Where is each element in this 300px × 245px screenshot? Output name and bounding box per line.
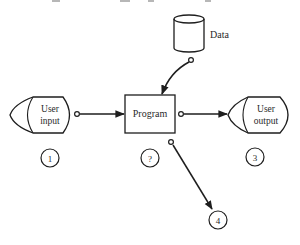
edge-input-to-program: [75, 112, 124, 117]
user-input-label-line1: User: [41, 104, 60, 114]
connector-dot: [169, 140, 174, 145]
marker-3: 3: [246, 148, 264, 166]
marker-4-label: 4: [216, 216, 221, 226]
data-store-label: Data: [210, 29, 229, 40]
connector-dot: [189, 58, 194, 63]
edge-data-to-program: [162, 58, 193, 94]
caption-fragment: [52, 0, 211, 2]
user-output-label-line2: output: [254, 116, 279, 126]
connector-dot: [179, 112, 184, 117]
connector-dot: [75, 112, 80, 117]
data-store-node: Data: [174, 15, 229, 52]
edge-program-to-output: [179, 112, 227, 117]
marker-3-label: 3: [253, 153, 258, 163]
marker-2-label: ?: [148, 154, 152, 164]
cylinder-icon: [174, 15, 204, 52]
marker-2: ?: [141, 149, 159, 167]
flow-diagram: Data Program User input User output: [0, 0, 300, 245]
user-output-node: User output: [228, 97, 288, 133]
marker-1: 1: [41, 149, 59, 167]
program-label: Program: [133, 108, 168, 119]
program-node: Program: [125, 95, 175, 133]
user-input-node: User input: [10, 97, 70, 133]
user-output-label-line1: User: [257, 104, 276, 114]
user-input-label-line2: input: [40, 116, 60, 126]
marker-1-label: 1: [48, 154, 53, 164]
edge-program-to-marker-4: [169, 140, 212, 209]
marker-4: 4: [209, 211, 227, 229]
